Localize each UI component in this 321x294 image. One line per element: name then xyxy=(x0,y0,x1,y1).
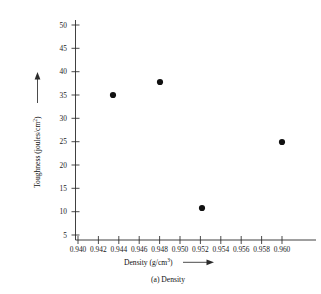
x-tick-label: 0.956 xyxy=(233,245,250,254)
y-tick-label: 25 xyxy=(60,137,68,146)
x-tick-label: 0.950 xyxy=(172,245,189,254)
x-tick-label: 0.946 xyxy=(131,245,148,254)
y-tick-label: 40 xyxy=(60,67,68,76)
y-tick-label: 10 xyxy=(60,207,68,216)
figure-caption: (a) Density xyxy=(151,275,185,284)
y-tick-label: 50 xyxy=(60,21,68,30)
x-tick-labels: 0.940 0.942 0.944 0.946 0.948 0.950 0.95… xyxy=(70,245,291,254)
y-axis-label-group: Toughness (joules/cm2) xyxy=(32,72,42,188)
y-tick-labels: 50 45 40 35 30 25 20 15 10 5 xyxy=(60,21,68,240)
y-tick-label: 20 xyxy=(60,161,68,170)
x-tick-label: 0.954 xyxy=(212,245,229,254)
x-axis-label-group: Density (g/cm3) xyxy=(124,257,214,267)
y-tick-label: 15 xyxy=(60,184,68,193)
data-point xyxy=(157,79,163,85)
scatter-plot: 50 45 40 35 30 25 20 15 10 5 0. xyxy=(0,0,321,294)
up-arrow-icon xyxy=(35,72,41,80)
data-point xyxy=(110,92,116,98)
y-tick-label: 5 xyxy=(63,231,67,240)
right-arrow-icon xyxy=(207,259,215,265)
figure-container: 50 45 40 35 30 25 20 15 10 5 0. xyxy=(0,0,321,294)
x-tick-label: 0.948 xyxy=(151,245,168,254)
data-point xyxy=(279,139,285,145)
x-axis-title: Density (g/cm3) xyxy=(124,257,173,267)
y-tick-label: 30 xyxy=(60,114,68,123)
y-tick-label: 35 xyxy=(60,91,68,100)
x-tick-label: 0.952 xyxy=(192,245,209,254)
x-tick-label: 0.958 xyxy=(253,245,270,254)
x-tick-label: 0.944 xyxy=(110,245,127,254)
x-tick-label: 0.942 xyxy=(90,245,107,254)
data-points-group xyxy=(110,79,285,211)
x-tick-label: 0.940 xyxy=(70,245,87,254)
y-axis-title: Toughness (joules/cm2) xyxy=(32,116,42,188)
x-tick-label: 0.960 xyxy=(274,245,291,254)
data-point xyxy=(199,205,205,211)
y-tick-label: 45 xyxy=(60,44,68,53)
